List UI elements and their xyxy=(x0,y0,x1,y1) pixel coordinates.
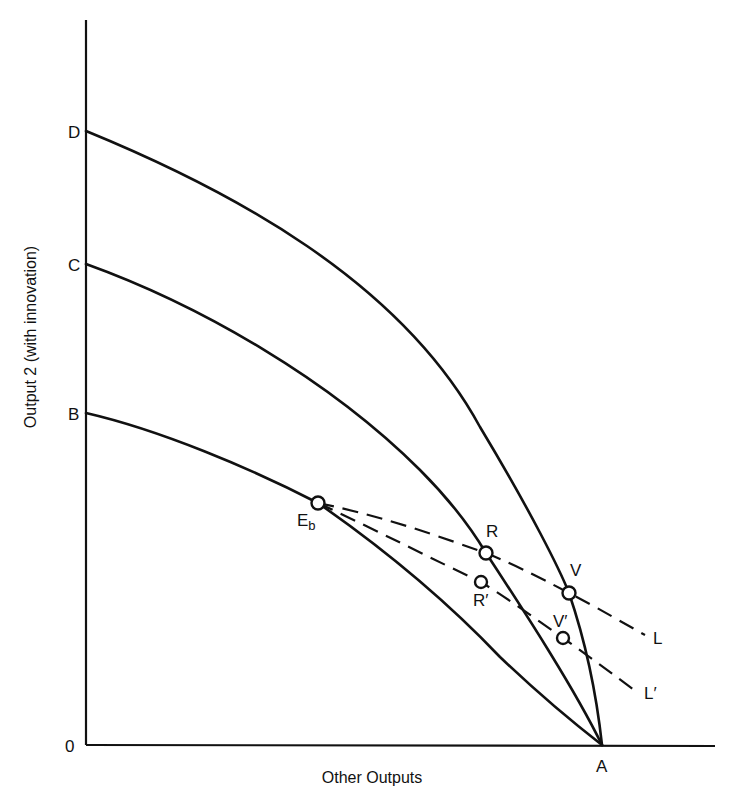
y-axis-label: Output 2 (with innovation) xyxy=(22,246,39,428)
label-r-prime: R′ xyxy=(473,591,488,610)
line-l xyxy=(318,503,645,635)
label-c: C xyxy=(68,256,80,275)
point-r xyxy=(480,547,493,560)
label-r: R xyxy=(486,522,498,541)
label-origin: 0 xyxy=(65,737,74,756)
label-a: A xyxy=(596,757,608,776)
curve-b-a xyxy=(86,413,602,745)
x-axis-label: Other Outputs xyxy=(322,769,423,786)
label-eb: Eb xyxy=(297,511,316,533)
production-possibility-diagram: D C B 0 A Eb R R′ V V′ L L′ Other Output… xyxy=(0,0,734,809)
label-l: L xyxy=(653,629,662,648)
label-l-prime: L′ xyxy=(644,684,657,703)
label-v-prime: V′ xyxy=(553,612,568,631)
label-v: V xyxy=(570,561,582,580)
point-r-prime xyxy=(475,576,487,588)
x-axis xyxy=(86,745,715,746)
label-b: B xyxy=(68,405,79,424)
curve-d-a xyxy=(86,131,602,745)
point-eb xyxy=(312,497,325,510)
point-v xyxy=(563,587,576,600)
point-v-prime xyxy=(557,632,569,644)
label-d: D xyxy=(68,123,80,142)
